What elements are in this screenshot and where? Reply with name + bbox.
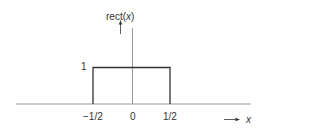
x-tick-zero: 0 [130, 112, 136, 122]
x-arrow-head-icon [236, 118, 241, 121]
y-axis-label: rect(x) [106, 12, 134, 22]
x-tick-neg-half: −1/2 [83, 112, 103, 122]
rect-function-curve [93, 68, 170, 105]
y-tick-1: 1 [81, 62, 87, 72]
x-tick-half: 1/2 [163, 112, 177, 122]
x-axis-label: x [246, 115, 251, 125]
